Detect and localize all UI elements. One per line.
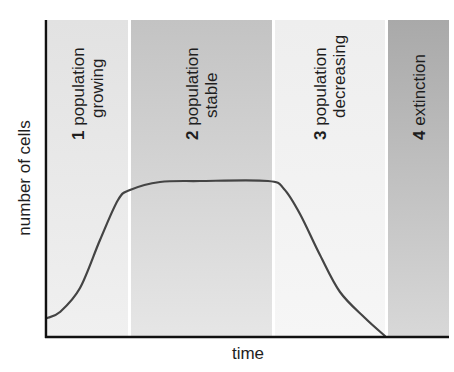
svg-text:decreasing: decreasing	[330, 35, 349, 118]
y-axis-label: number of cells	[15, 120, 34, 235]
phase-bands	[48, 20, 449, 337]
phase-label-4: 4 extinction	[410, 54, 429, 140]
svg-text:growing: growing	[88, 58, 107, 118]
svg-text:1 population: 1 population	[69, 47, 88, 140]
x-axis-label: time	[232, 344, 264, 363]
phase-band-2	[131, 20, 272, 337]
svg-text:2 population: 2 population	[183, 47, 202, 140]
population-growth-chart: time number of cells 1 populationgrowing…	[0, 0, 454, 372]
svg-text:3 population: 3 population	[311, 47, 330, 140]
svg-text:4 extinction: 4 extinction	[410, 54, 429, 140]
svg-text:stable: stable	[202, 73, 221, 118]
